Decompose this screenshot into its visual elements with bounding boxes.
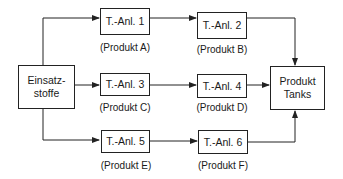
plant-name: T.-Anl. 6 (204, 136, 243, 149)
source-label-line2: stoffe (34, 87, 60, 100)
plant-name: T.-Anl. 5 (106, 135, 145, 148)
plant-box-6: T.-Anl. 6 (198, 130, 248, 154)
product-label-b: (Produkt B) (187, 44, 257, 55)
plant-name: T.-Anl. 1 (106, 15, 145, 28)
source-label-line1: Einsatz- (28, 74, 66, 87)
plant-box-4: T.-Anl. 4 (197, 74, 247, 98)
product-label-c: (Produkt C) (90, 102, 160, 113)
plant-box-5: T.-Anl. 5 (101, 130, 150, 153)
target-label-line2: Tanks (284, 88, 311, 101)
source-box-einsatzstoffe: Einsatz- stoffe (18, 65, 75, 109)
plant-box-3: T.-Anl. 3 (100, 73, 150, 96)
target-label-line1: Produkt (279, 75, 315, 88)
plant-box-1: T.-Anl. 1 (100, 8, 150, 35)
product-label-a: (Produkt A) (90, 42, 160, 53)
plant-name: T.-Anl. 2 (203, 19, 242, 32)
product-label-e: (Produkt E) (91, 160, 161, 171)
target-box-produkt-tanks: Produkt Tanks (270, 66, 325, 110)
plant-name: T.-Anl. 3 (106, 78, 145, 91)
product-label-f: (Produkt F) (188, 160, 258, 171)
plant-box-2: T.-Anl. 2 (197, 12, 247, 39)
plant-name: T.-Anl. 4 (203, 80, 242, 93)
product-label-d: (Produkt D) (187, 102, 257, 113)
